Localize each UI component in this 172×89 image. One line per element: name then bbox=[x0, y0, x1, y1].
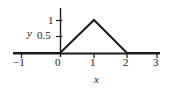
x-tick-label-1: 1 bbox=[90, 57, 96, 68]
data-series-triangular-pulse bbox=[13, 20, 160, 53]
triangular-pulse-plot bbox=[0, 0, 172, 89]
x-tick-label-neg1: −1 bbox=[13, 57, 25, 68]
y-tick-label-0point5: 0.5 bbox=[37, 30, 51, 41]
x-axis-label: x bbox=[94, 74, 99, 85]
x-tick-label-3: 3 bbox=[153, 57, 159, 68]
y-tick-label-1: 1 bbox=[48, 15, 54, 26]
x-tick-label-0: 0 bbox=[55, 57, 61, 68]
y-axis-label: y bbox=[27, 28, 32, 39]
plot-figure: −1 0 1 2 3 1 0.5 x y bbox=[0, 0, 172, 89]
x-tick-label-2: 2 bbox=[123, 57, 129, 68]
